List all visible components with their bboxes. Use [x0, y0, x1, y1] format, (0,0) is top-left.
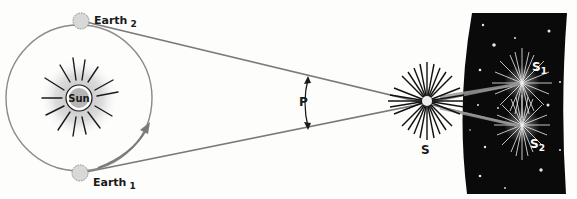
- near-star: [388, 62, 466, 140]
- earth2-label: Earth2: [94, 14, 137, 29]
- sun-label: Sun: [68, 93, 89, 104]
- earth1-label: Earth1: [93, 176, 136, 191]
- sun: Sun: [39, 58, 119, 138]
- diagram-canvas: Sun Earth2 Earth1 P S S1 S2: [0, 0, 577, 199]
- orbit-direction-arrow: [98, 130, 146, 168]
- parallax-angle-marker: P: [299, 76, 311, 130]
- parallax-diagram: Sun Earth2 Earth1 P S S1 S2: [0, 0, 577, 199]
- earth-2: Earth2: [73, 13, 137, 29]
- near-star-label: S: [421, 143, 430, 157]
- parallax-label: P: [299, 95, 308, 109]
- distant-sky-panel: [463, 13, 567, 194]
